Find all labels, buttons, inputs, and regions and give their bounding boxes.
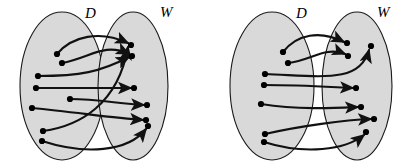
diagram-canvas: D W xyxy=(0,0,412,166)
codomain-node xyxy=(368,43,374,49)
set-ellipse-d-left xyxy=(20,12,104,160)
domain-node xyxy=(258,101,264,107)
domain-node xyxy=(39,138,45,144)
codomain-node xyxy=(345,53,351,59)
codomain-node xyxy=(371,116,377,122)
domain-node xyxy=(262,131,268,137)
codomain-node xyxy=(358,104,364,110)
codomain-node xyxy=(145,123,151,129)
domain-node xyxy=(262,71,268,77)
codomain-node xyxy=(144,102,150,108)
set-label-d-left: D xyxy=(84,5,96,21)
domain-node xyxy=(54,51,60,57)
codomain-node xyxy=(128,42,134,48)
set-label-w-right: W xyxy=(377,4,391,20)
left-mapping-diagram: D W xyxy=(20,4,174,160)
set-label-w-left: W xyxy=(160,4,174,20)
domain-node xyxy=(261,82,267,88)
domain-node xyxy=(67,96,73,102)
mapping-diagram-figure: D W xyxy=(0,0,412,166)
codomain-node xyxy=(363,129,369,135)
codomain-node xyxy=(143,117,149,123)
domain-node xyxy=(59,60,65,66)
domain-node xyxy=(35,73,41,79)
set-label-d-right: D xyxy=(295,5,307,21)
right-mapping-diagram: D W xyxy=(230,4,392,160)
domain-node xyxy=(261,139,267,145)
domain-node xyxy=(29,105,35,111)
domain-node xyxy=(40,128,46,134)
domain-node xyxy=(280,49,286,55)
domain-node xyxy=(285,60,291,66)
codomain-node xyxy=(344,40,350,46)
codomain-node xyxy=(353,85,359,91)
domain-node xyxy=(33,85,39,91)
codomain-node xyxy=(131,85,137,91)
codomain-node xyxy=(129,53,135,59)
